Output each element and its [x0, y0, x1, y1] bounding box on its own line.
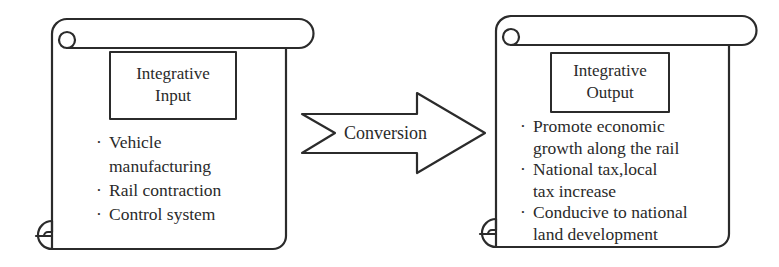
bullet-icon: · — [520, 159, 526, 181]
input-list-item: · Vehicle manufacturing — [96, 130, 221, 178]
output-list-item: · National tax,local tax increase — [520, 159, 688, 202]
output-title-line1: Integrative — [551, 60, 669, 82]
bullet-icon: · — [520, 202, 526, 224]
bullet-icon: · — [96, 130, 102, 154]
input-title-line2: Input — [110, 85, 236, 107]
input-list-item: · Control system — [96, 202, 221, 226]
output-list-item: · Conducive to national land development — [520, 202, 688, 245]
input-list-item: · Rail contraction — [96, 178, 221, 202]
output-title-line2: Output — [551, 82, 669, 104]
output-list-item: · Promote economic growth along the rail — [520, 116, 688, 159]
bullet-icon: · — [96, 178, 102, 202]
input-title: Integrative Input — [110, 63, 236, 107]
input-list: · Vehicle manufacturing · Rail contracti… — [96, 130, 221, 226]
input-title-line1: Integrative — [110, 63, 236, 85]
bullet-icon: · — [96, 202, 102, 226]
bullet-icon: · — [520, 116, 526, 138]
conversion-label: Conversion — [344, 122, 427, 144]
output-title: Integrative Output — [551, 60, 669, 104]
output-list: · Promote economic growth along the rail… — [520, 116, 688, 245]
